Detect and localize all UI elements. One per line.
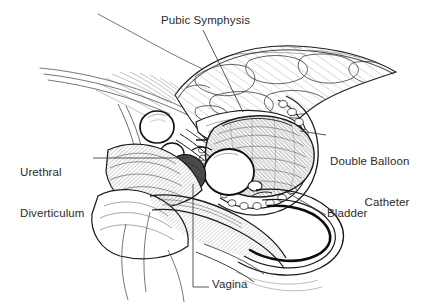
label-pubic-symphysis: Pubic Symphysis xyxy=(161,14,250,28)
label-urethral-diverticulum-line1: Urethral xyxy=(20,166,84,180)
label-urethral-diverticulum-line2: Diverticulum xyxy=(20,207,84,221)
label-vagina: Vagina xyxy=(212,278,248,292)
label-bladder: Bladder xyxy=(327,207,367,221)
proximal-balloon xyxy=(140,111,174,143)
illustration-page: Pubic Symphysis Urethral Diverticulum Do… xyxy=(0,0,428,307)
label-urethral-diverticulum: Urethral Diverticulum xyxy=(20,139,84,247)
label-double-balloon-catheter-line1: Double Balloon xyxy=(330,155,409,169)
